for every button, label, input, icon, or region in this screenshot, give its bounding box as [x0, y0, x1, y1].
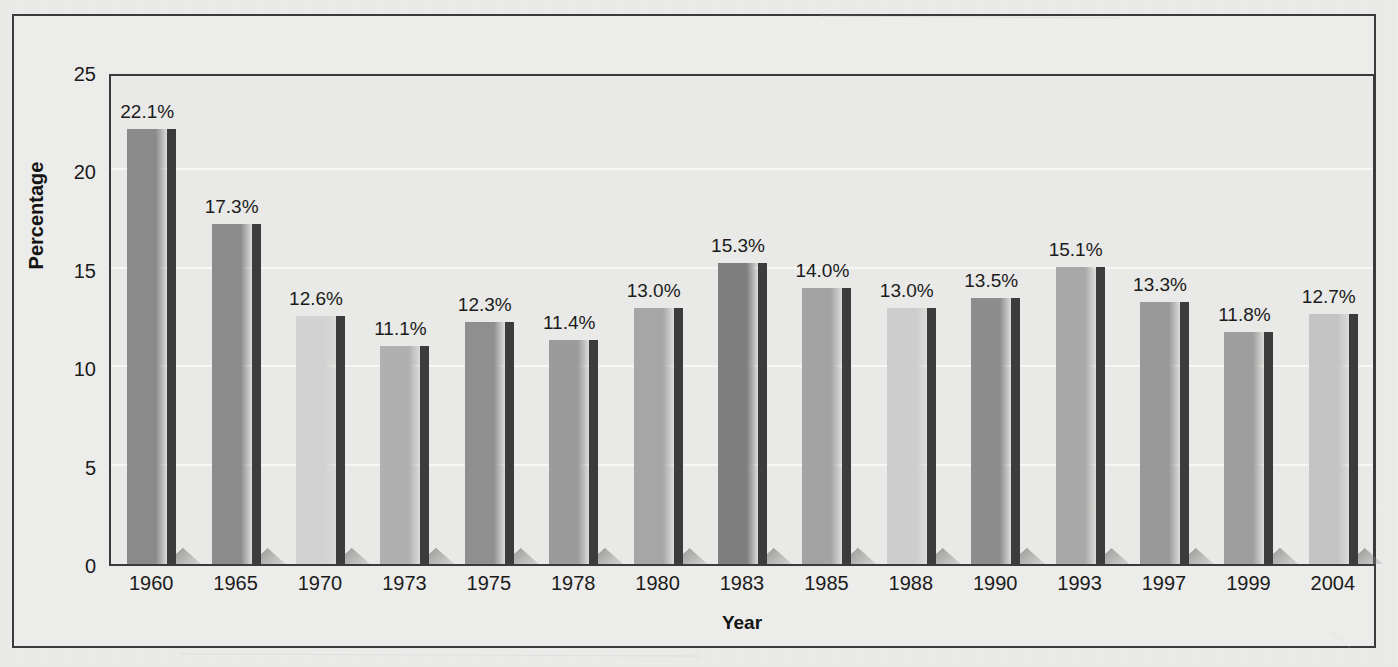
chart-figure: Percentage 0510152025 22.1%17.3%12.6%11.…: [0, 0, 1398, 667]
y-axis-title: Percentage: [25, 146, 48, 286]
y-axis-tick-label: 5: [85, 456, 96, 479]
bar-front-face: [887, 308, 927, 564]
x-axis-tick-label: 1997: [1142, 572, 1187, 595]
bar-value-label: 13.0%: [880, 280, 934, 302]
bar[interactable]: 11.8%: [1224, 332, 1264, 564]
x-axis-title: Year: [109, 612, 1375, 634]
x-axis-tick-label: 1973: [382, 572, 427, 595]
bar-value-label: 13.3%: [1133, 274, 1187, 296]
x-axis-tick-label: 1978: [551, 572, 596, 595]
y-axis-tick-label: 20: [74, 161, 96, 184]
bar[interactable]: 22.1%: [127, 129, 167, 564]
bar[interactable]: 15.3%: [718, 263, 758, 564]
bar-front-face: [971, 298, 1011, 564]
x-axis-tick-label: 1965: [213, 572, 258, 595]
bar-side-face: [927, 308, 936, 564]
bar-front-face: [634, 308, 674, 564]
x-axis-tick-label: 1988: [889, 572, 934, 595]
x-axis-tick-labels: 1960196519701973197519781980198319851988…: [109, 572, 1375, 606]
bar[interactable]: 15.1%: [1056, 267, 1096, 564]
x-axis-tick-label: 1970: [298, 572, 343, 595]
x-axis-tick-label: 1999: [1226, 572, 1271, 595]
bar-value-label: 15.1%: [1049, 239, 1103, 261]
bar-value-label: 11.4%: [543, 312, 595, 334]
bar-value-label: 12.3%: [458, 294, 512, 316]
bar-side-face: [252, 224, 261, 564]
x-axis-tick-label: 1975: [467, 572, 512, 595]
bar-side-face: [674, 308, 683, 564]
bar-value-label: 15.3%: [711, 235, 765, 257]
bar-value-label: 17.3%: [205, 196, 259, 218]
bar-value-label: 13.5%: [964, 270, 1018, 292]
bar-value-label: 13.0%: [627, 280, 681, 302]
bar-front-face: [296, 316, 336, 564]
x-axis-tick-label: 1983: [720, 572, 765, 595]
bar-front-face: [1224, 332, 1264, 564]
x-axis-tick-label: 1960: [129, 572, 174, 595]
bar[interactable]: 13.3%: [1140, 302, 1180, 564]
y-axis-tick-labels: 0510152025: [54, 74, 104, 566]
bar-front-face: [718, 263, 758, 564]
bar-side-face: [336, 316, 345, 564]
bar-front-face: [1309, 314, 1349, 564]
bar-side-face: [1011, 298, 1020, 564]
bar-side-face: [758, 263, 767, 564]
bar-front-face: [380, 346, 420, 564]
bar-side-face: [842, 288, 851, 564]
y-axis-tick-label: 10: [74, 358, 96, 381]
bar-side-face: [167, 129, 176, 564]
bar-front-face: [1140, 302, 1180, 564]
bar-side-face: [420, 346, 429, 564]
bar-front-face: [1056, 267, 1096, 564]
x-axis-tick-label: 1990: [973, 572, 1018, 595]
bar-value-label: 12.7%: [1302, 286, 1356, 308]
bar-side-face: [505, 322, 514, 564]
y-axis-tick-label: 25: [74, 63, 96, 86]
bar[interactable]: 14.0%: [802, 288, 842, 564]
bar-front-face: [549, 340, 589, 564]
bar-front-face: [802, 288, 842, 564]
x-axis-tick-label: 1993: [1057, 572, 1102, 595]
bar-front-face: [465, 322, 505, 564]
bar-side-face: [1349, 314, 1358, 564]
bar[interactable]: 12.7%: [1309, 314, 1349, 564]
bar-value-label: 14.0%: [795, 260, 849, 282]
bar-side-face: [1264, 332, 1273, 564]
bar[interactable]: 13.0%: [887, 308, 927, 564]
x-axis-tick-label: 1980: [635, 572, 680, 595]
bar[interactable]: 17.3%: [212, 224, 252, 564]
bar-side-face: [589, 340, 598, 564]
gridline: [111, 168, 1373, 170]
y-axis-tick-label: 0: [85, 555, 96, 578]
x-axis-tick-label: 1985: [804, 572, 849, 595]
bar-value-label: 11.8%: [1218, 304, 1270, 326]
bar-side-face: [1180, 302, 1189, 564]
chart-outer-frame: Percentage 0510152025 22.1%17.3%12.6%11.…: [12, 14, 1376, 648]
bar[interactable]: 11.4%: [549, 340, 589, 564]
bar-value-label: 11.1%: [374, 318, 426, 340]
x-axis-tick-label: 2004: [1311, 572, 1356, 595]
bar-front-face: [127, 129, 167, 564]
plot-area: 22.1%17.3%12.6%11.1%12.3%11.4%13.0%15.3%…: [109, 74, 1375, 566]
bar[interactable]: 12.3%: [465, 322, 505, 564]
bar[interactable]: 13.5%: [971, 298, 1011, 564]
bar[interactable]: 13.0%: [634, 308, 674, 564]
y-axis-tick-label: 15: [74, 259, 96, 282]
bar-side-face: [1096, 267, 1105, 564]
bar-value-label: 12.6%: [289, 288, 343, 310]
bar-front-face: [212, 224, 252, 564]
bar[interactable]: 11.1%: [380, 346, 420, 564]
bar[interactable]: 12.6%: [296, 316, 336, 564]
bar-value-label: 22.1%: [120, 101, 174, 123]
